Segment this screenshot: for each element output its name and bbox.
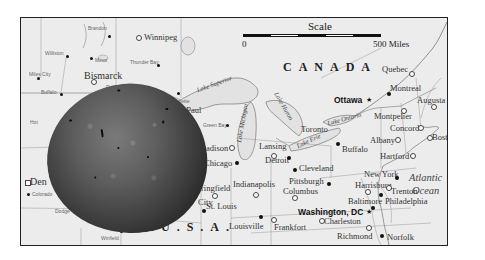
stone-pit xyxy=(147,156,149,158)
city-label-baltimore: Baltimore xyxy=(348,197,382,206)
city-ring xyxy=(91,79,97,85)
city-dot xyxy=(293,168,297,172)
city-label-new-york: New York xyxy=(364,170,398,179)
map-frame: Scale 0 500 Miles CANADA U.S.A. Atlantic… xyxy=(20,17,448,246)
city-label-albany: Albany xyxy=(370,136,395,145)
city-ring xyxy=(418,125,424,131)
city-label-quebec: Quebec xyxy=(382,65,408,74)
city-label-denver: Den xyxy=(30,177,47,187)
stone-pit xyxy=(165,108,168,110)
stone-pit xyxy=(117,89,120,91)
city-dot xyxy=(387,92,391,96)
capital-star-icon: ★ xyxy=(366,209,372,216)
city-label-toronto: Toronto xyxy=(301,125,328,134)
city-label-augusta: Augusta xyxy=(417,96,445,105)
city-label-brandon: Brandon xyxy=(88,26,107,31)
city-label-charleston: Charleston xyxy=(324,217,361,226)
city-ring xyxy=(136,35,142,41)
city-ring xyxy=(409,71,415,77)
stone-pit xyxy=(117,147,119,149)
city-ring xyxy=(365,189,371,195)
city-label-winfield: Winfield xyxy=(101,236,119,241)
city-label-green-bay: Green Bay xyxy=(203,123,227,128)
city-dot xyxy=(336,142,340,146)
stone-pit xyxy=(69,119,72,121)
city-label-montpelier: Montpelier xyxy=(374,112,412,121)
city-dot xyxy=(327,182,331,186)
city-label-frankfort: Frankfort xyxy=(274,223,306,232)
city-label-springfield: ringfield xyxy=(201,184,230,193)
stone-pit xyxy=(162,120,164,123)
city-label-thunder-bay: Thunder Bay xyxy=(130,60,159,65)
city-ring xyxy=(395,137,401,143)
city-label-lansing: Lansing xyxy=(259,142,286,151)
city-label-madison: adison xyxy=(206,144,228,153)
city-dot xyxy=(66,55,69,58)
scale-segment xyxy=(326,34,353,37)
city-dot xyxy=(108,35,111,38)
city-label-miles-city: Miles City xyxy=(29,72,51,77)
city-ring xyxy=(410,153,416,159)
city-dot xyxy=(37,77,40,80)
city-label-pittsburgh: Pittsburgh xyxy=(289,177,324,186)
city-label-winnipeg: Winnipeg xyxy=(144,33,177,42)
city-label-cleveland: Cleveland xyxy=(299,164,333,173)
city-dot xyxy=(27,193,30,196)
scale-segment xyxy=(271,34,298,37)
city-dot xyxy=(177,92,180,95)
stone-pit xyxy=(94,176,96,178)
city-label-dodge-city: Dodge xyxy=(55,209,70,214)
city-label-hot-springs: Hot xyxy=(30,120,38,125)
city-dot xyxy=(157,64,160,67)
city-label-montreal: Montreal xyxy=(390,84,421,93)
city-label-st-louis: St. Louis xyxy=(206,202,237,211)
city-dot xyxy=(380,234,384,238)
city-label-minot: Minot xyxy=(95,58,107,63)
city-dot xyxy=(395,176,399,180)
city-label-williston: Williston xyxy=(45,51,64,56)
city-label-detroit: Detroit xyxy=(265,156,289,165)
city-label-indianapolis: Indianapolis xyxy=(233,180,275,189)
ocean-label-line1: Atlantic xyxy=(409,173,442,184)
city-label-chicago: Chicago xyxy=(204,159,232,168)
scale-segment xyxy=(243,34,271,37)
city-label-colorado-springs: Colorado xyxy=(32,192,52,197)
city-ring xyxy=(253,192,259,198)
city-dot xyxy=(287,156,291,160)
city-dot xyxy=(90,57,93,60)
city-label-boston: Boston xyxy=(432,133,448,142)
country-label-canada: CANADA xyxy=(283,61,377,73)
city-label-norfolk: Norfolk xyxy=(387,233,414,242)
city-label-buffalo-ny: Buffalo xyxy=(342,145,368,154)
city-ring xyxy=(292,195,298,201)
city-ring xyxy=(431,104,437,110)
scale-start-label: 0 xyxy=(242,40,247,49)
city-label-hartford: Hartford xyxy=(380,152,409,161)
city-label-columbus: Columbus xyxy=(283,187,318,196)
city-label-concord: Concord xyxy=(390,124,419,133)
scale-segment xyxy=(298,34,326,37)
scale-segment xyxy=(353,34,381,37)
city-label-richmond: Richmond xyxy=(337,232,372,241)
city-label-trenton: Trenton xyxy=(391,187,418,196)
city-ring xyxy=(229,145,235,151)
city-dot xyxy=(60,93,63,96)
city-dot xyxy=(235,161,239,165)
city-dot xyxy=(226,124,229,127)
city-label-buffalo-wy: Buffalo xyxy=(41,90,56,95)
city-label-philadelphia: Philadelphia xyxy=(385,197,428,206)
city-dot xyxy=(259,215,263,219)
city-label-louisville: Louisville xyxy=(229,222,263,231)
stone-pit xyxy=(101,129,104,137)
scale-end-label: 500 Miles xyxy=(373,40,409,49)
capital-star-icon: ★ xyxy=(366,97,372,104)
city-label-ottawa: Ottawa xyxy=(334,96,362,105)
city-label-bismarck: Bismarck xyxy=(84,71,122,81)
scale-title: Scale xyxy=(308,21,332,32)
